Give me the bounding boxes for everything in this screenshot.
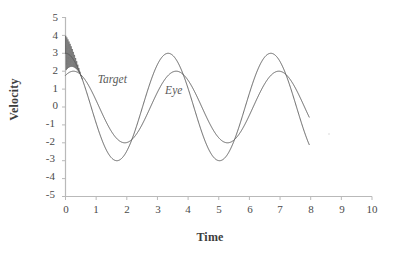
- xtick-label-3: 3: [148, 203, 168, 215]
- ytick-label-4: 4: [38, 29, 58, 41]
- ytick-label-0: 0: [38, 99, 58, 111]
- xtick-label-4: 4: [178, 203, 198, 215]
- xtick-label-7: 7: [270, 203, 290, 215]
- target-series-label: Target: [98, 73, 127, 85]
- xtick-label-6: 6: [240, 203, 260, 215]
- xtick-label-2: 2: [117, 203, 137, 215]
- ytick-label-1: 1: [38, 82, 58, 94]
- ytick-label-m3: -3: [35, 152, 55, 164]
- eye-series-label: Eye: [165, 84, 182, 96]
- image-speck: [328, 133, 329, 134]
- chart-canvas: [0, 0, 395, 262]
- ytick-label-2: 2: [38, 64, 58, 76]
- xtick-label-8: 8: [301, 203, 321, 215]
- xtick-label-1: 1: [86, 203, 106, 215]
- ytick-label-m4: -4: [35, 170, 55, 182]
- xtick-label-10: 10: [362, 203, 382, 215]
- xtick-label-0: 0: [56, 203, 76, 215]
- ytick-label-m2: -2: [35, 135, 55, 147]
- ytick-label-5: 5: [38, 11, 58, 23]
- ytick-label-m1: -1: [35, 117, 55, 129]
- velocity-time-chart: 5 4 3 2 1 0 -1 -2 -3 -4 -5 0 1 2 3 4 5 6…: [0, 0, 395, 262]
- ytick-label-m5: -5: [35, 188, 55, 200]
- xtick-label-5: 5: [209, 203, 229, 215]
- y-axis-title: Velocity: [7, 65, 22, 135]
- xtick-label-9: 9: [332, 203, 352, 215]
- ytick-label-3: 3: [38, 46, 58, 58]
- x-axis-title: Time: [170, 230, 250, 245]
- target-curve: [66, 53, 310, 160]
